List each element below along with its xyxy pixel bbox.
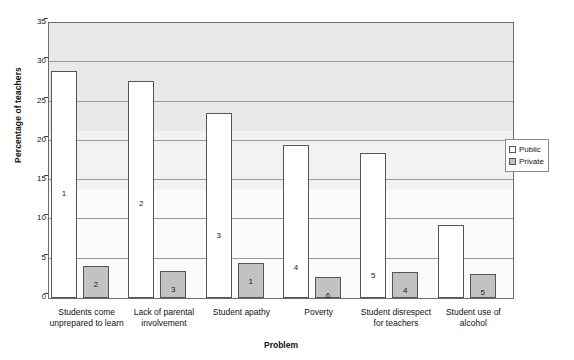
bar-value-label: 2	[84, 281, 108, 289]
bar-value-label: 5	[471, 289, 495, 297]
bar-public[interactable]: 3	[206, 113, 232, 298]
x-tick-label-line1: Student use of	[427, 307, 520, 318]
bar-group: 23	[126, 23, 203, 298]
y-tick-label-30: 30	[2, 57, 46, 65]
x-tick-label-line2: involvement	[117, 318, 210, 329]
plot-area: 1223314654105	[48, 22, 514, 299]
bar-group: 46	[281, 23, 358, 298]
y-axis-title: Percentage of teachers	[13, 15, 23, 215]
bar-value-label: 1	[52, 190, 76, 198]
y-tick-label-25: 25	[2, 97, 46, 105]
y-tick-label-15: 15	[2, 175, 46, 183]
bar-private[interactable]: 1	[238, 263, 264, 298]
bar-group: 105	[436, 23, 513, 298]
bar-value-label: 3	[161, 286, 185, 294]
bar-value-label: 4	[284, 264, 308, 272]
y-tick-label-35: 35	[2, 18, 46, 26]
bar-value-label: 5	[361, 272, 385, 280]
bar-value-label: 2	[129, 200, 153, 208]
x-tick-label: Student use ofalcohol	[427, 307, 520, 329]
legend-label-private: Private	[519, 156, 544, 167]
bar-group: 54	[358, 23, 435, 298]
legend-item-private[interactable]: Private	[509, 156, 544, 167]
bar-public[interactable]: 10	[438, 225, 464, 298]
bar-group: 12	[49, 23, 126, 298]
x-tick-label-line2: alcohol	[427, 318, 520, 329]
bar-private[interactable]: 5	[470, 274, 496, 298]
bar-value-label: 1	[239, 278, 263, 286]
y-tick-label-5: 5	[2, 254, 46, 262]
y-tick-label-0: 0	[2, 293, 46, 301]
y-tick-label-20: 20	[2, 136, 46, 144]
y-tick-mark-35	[44, 18, 48, 19]
bar-private[interactable]: 6	[315, 277, 341, 298]
bar-private[interactable]: 3	[160, 271, 186, 299]
bar-public[interactable]: 5	[360, 153, 386, 298]
private-swatch-icon	[509, 158, 516, 165]
bar-value-label: 3	[207, 232, 231, 240]
bar-value-label: 4	[393, 287, 417, 295]
public-swatch-icon	[509, 146, 516, 153]
bar-group: 31	[204, 23, 281, 298]
bar-series-container: 1223314654105	[49, 23, 513, 298]
x-axis: Students comeunprepared to learnLack of …	[48, 301, 514, 341]
y-axis: Percentage of teachers 05101520253035	[0, 0, 48, 300]
bar-private[interactable]: 4	[392, 272, 418, 298]
legend: Public Private	[505, 139, 549, 172]
bar-public[interactable]: 1	[51, 71, 77, 298]
bar-value-label: 6	[316, 292, 340, 299]
x-axis-title: Problem	[48, 340, 514, 350]
legend-item-public[interactable]: Public	[509, 144, 544, 155]
bar-private[interactable]: 2	[83, 266, 109, 298]
bar-chart-figure: Percentage of teachers 05101520253035 12…	[0, 0, 574, 360]
legend-label-public: Public	[519, 144, 541, 155]
y-tick-label-10: 10	[2, 214, 46, 222]
bar-public[interactable]: 4	[283, 145, 309, 298]
bar-public[interactable]: 2	[128, 81, 154, 298]
